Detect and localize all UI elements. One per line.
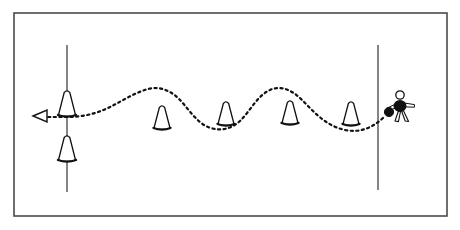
player-head — [396, 91, 404, 99]
diagram-surface — [0, 0, 460, 230]
player-torso — [394, 100, 407, 112]
drill-diagram-canvas: Dribbling Slalom Drill Diagram Dribble i… — [0, 0, 460, 230]
ball — [384, 107, 393, 116]
